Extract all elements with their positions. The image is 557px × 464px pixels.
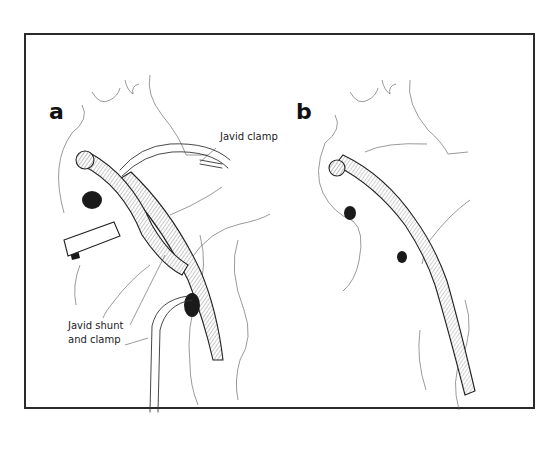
panel-a-drawing: [59, 75, 270, 412]
callout-javid-shunt-line2: and clamp: [68, 333, 123, 347]
panel-b-drawing: [318, 80, 475, 410]
callout-javid-clamp: Javid clamp: [220, 130, 278, 144]
leader-javid-shunt: [125, 338, 148, 345]
callout-javid-shunt: Javid shunt and clamp: [68, 319, 123, 347]
panel-label-b: b: [296, 101, 312, 123]
panel-label-a: a: [49, 101, 64, 123]
callout-javid-shunt-line1: Javid shunt: [68, 319, 123, 333]
illustration-canvas: [0, 0, 557, 464]
